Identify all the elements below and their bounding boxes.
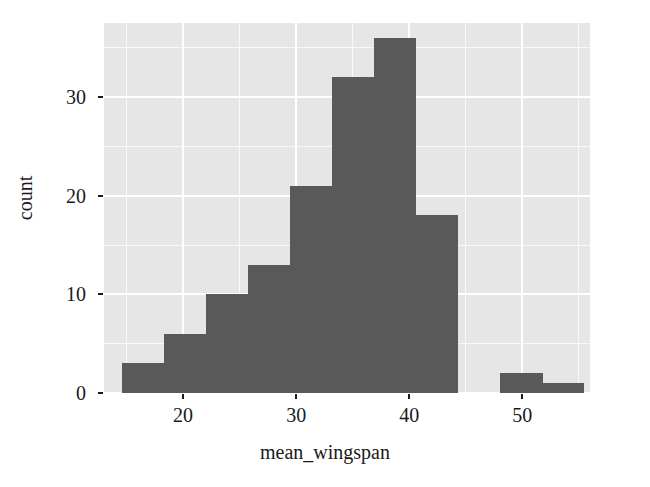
histogram-bar xyxy=(543,383,585,393)
histogram-bar xyxy=(416,215,458,393)
y-axis-tick-label: 0 xyxy=(14,383,86,403)
histogram-bar xyxy=(290,186,332,393)
y-axis-tick-label: 10 xyxy=(14,284,86,304)
histogram-bar xyxy=(206,294,248,393)
x-axis-tick-label: 20 xyxy=(143,405,223,425)
gridline-minor-vertical xyxy=(465,23,466,393)
y-axis-tick xyxy=(98,195,103,197)
plot-panel xyxy=(104,23,590,393)
x-axis-tick xyxy=(295,394,297,399)
gridline-major-vertical xyxy=(521,23,523,393)
histogram-bar xyxy=(122,363,164,393)
gridline-minor-vertical xyxy=(578,23,579,393)
histogram-bar xyxy=(374,38,416,393)
x-axis-tick-label: 50 xyxy=(482,405,562,425)
x-axis-tick xyxy=(408,394,410,399)
histogram-bar xyxy=(164,334,206,393)
y-axis-tick-label: 30 xyxy=(14,87,86,107)
x-axis-tick-label: 40 xyxy=(369,405,449,425)
gridline-minor-horizontal xyxy=(104,47,590,48)
histogram-figure: count mean_wingspan 010203020304050 xyxy=(0,0,650,487)
x-axis-label: mean_wingspan xyxy=(0,440,650,464)
histogram-bar xyxy=(332,77,374,393)
histogram-bar xyxy=(500,373,543,393)
x-axis-tick-label: 30 xyxy=(256,405,336,425)
gridline-minor-vertical xyxy=(126,23,127,393)
y-axis-tick xyxy=(98,96,103,98)
y-axis-tick xyxy=(98,293,103,295)
y-axis-tick-label: 20 xyxy=(14,186,86,206)
x-axis-tick xyxy=(521,394,523,399)
y-axis-tick xyxy=(98,392,103,394)
x-axis-tick xyxy=(182,394,184,399)
histogram-bar xyxy=(248,265,291,393)
